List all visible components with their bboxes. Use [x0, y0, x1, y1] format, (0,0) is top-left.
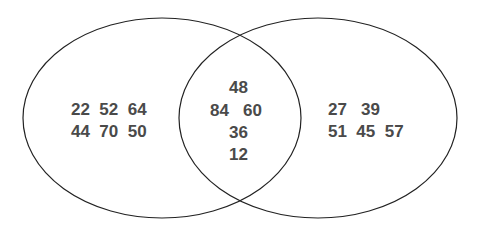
intersection-row-4: 12	[229, 144, 248, 166]
left-set-row-2: 44 70 50	[71, 121, 147, 143]
right-set-row-2: 51 45 57	[328, 121, 404, 143]
left-set-row-1: 22 52 64	[71, 99, 147, 121]
right-set-row-1: 27 39	[328, 99, 380, 121]
intersection-top: 48	[229, 77, 248, 99]
intersection-row-3: 36	[229, 122, 248, 144]
intersection-middle: 84 60	[210, 100, 262, 122]
